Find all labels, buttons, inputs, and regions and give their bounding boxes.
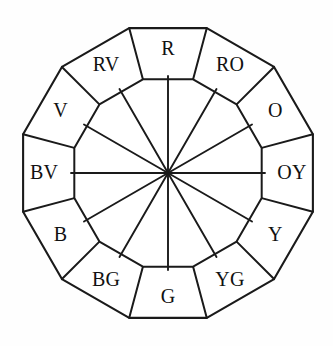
segment-label-blue-violet: BV — [30, 161, 59, 183]
segment-label-red: R — [161, 37, 175, 59]
segment-label-green: G — [161, 285, 176, 307]
color-wheel-diagram: RROOOYYYGGBGBBVVRV — [0, 0, 333, 346]
segment-label-blue: B — [54, 223, 68, 245]
segment-label-red-orange: RO — [216, 53, 244, 75]
segment-label-yellow-green: YG — [215, 268, 244, 290]
segment-label-yellow: Y — [268, 223, 283, 245]
color-wheel-svg: RROOOYYYGGBGBBVVRV — [0, 0, 333, 346]
segment-label-red-violet: RV — [93, 53, 120, 75]
segment-label-violet: V — [53, 99, 68, 121]
segment-label-blue-green: BG — [92, 268, 120, 290]
segment-label-orange: O — [268, 99, 283, 121]
segment-label-orange-yellow: OY — [277, 161, 306, 183]
